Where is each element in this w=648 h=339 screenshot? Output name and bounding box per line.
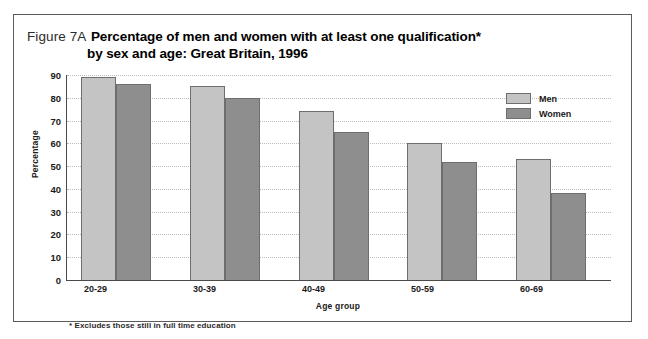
y-axis-tick-label: 0 (56, 275, 61, 286)
bar-women-40-49 (334, 132, 369, 280)
x-axis-tick-labels: 20-2930-3940-4950-5960-69 (66, 284, 611, 298)
x-axis-tick-label: 40-49 (284, 284, 393, 298)
y-axis-tick-label: 70 (50, 115, 61, 126)
legend-swatch-men (506, 93, 531, 104)
x-axis-tick-label: 50-59 (393, 284, 502, 298)
chart-legend: MenWomen (506, 93, 571, 123)
figure-title-line1: Percentage of men and women with at leas… (91, 29, 481, 44)
bar-group (393, 75, 502, 280)
y-axis-tick-label: 20 (50, 229, 61, 240)
bar-group (67, 75, 176, 280)
bar-women-20-29 (116, 84, 151, 280)
bar-men-50-59 (407, 143, 442, 280)
y-axis-tick-label: 40 (50, 183, 61, 194)
bar-group (176, 75, 285, 280)
legend-item-men: Men (506, 93, 571, 104)
bar-group (285, 75, 394, 280)
figure-title-line2: by sex and age: Great Britain, 1996 (27, 45, 621, 62)
x-axis-title: Age group (14, 301, 648, 311)
bar-women-60-69 (551, 193, 586, 280)
y-axis-tick-label: 80 (50, 92, 61, 103)
y-axis-tick-label: 90 (50, 70, 61, 81)
y-axis-tick-label: 50 (50, 161, 61, 172)
figure-footnote: * Excludes those still in full time educ… (69, 321, 236, 330)
legend-label-men: Men (539, 94, 557, 104)
bar-women-50-59 (442, 162, 477, 280)
bar-men-30-39 (190, 86, 225, 280)
x-axis-tick-label: 60-69 (502, 284, 611, 298)
figure-number: Figure 7A (27, 29, 86, 44)
legend-label-women: Women (539, 109, 571, 119)
y-axis-tick-label: 30 (50, 206, 61, 217)
y-axis-title: Percentage (30, 130, 40, 178)
title-line-1: Figure 7A Percentage of men and women wi… (27, 27, 621, 45)
x-axis-tick-label: 30-39 (175, 284, 284, 298)
bar-men-20-29 (81, 77, 116, 280)
figure-title-block: Figure 7A Percentage of men and women wi… (27, 27, 621, 62)
x-axis-tick-label: 20-29 (66, 284, 175, 298)
figure-frame: Figure 7A Percentage of men and women wi… (13, 14, 632, 322)
bar-women-30-39 (225, 98, 260, 280)
legend-item-women: Women (506, 108, 571, 119)
bar-men-60-69 (516, 159, 551, 280)
y-axis-tick-label: 60 (50, 138, 61, 149)
bar-men-40-49 (299, 111, 334, 280)
legend-swatch-women (506, 108, 531, 119)
y-axis-tick-label: 10 (50, 252, 61, 263)
